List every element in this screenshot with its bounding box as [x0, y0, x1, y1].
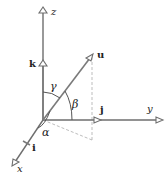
k-arrowhead-icon	[39, 60, 47, 66]
u-xy-projection-line	[43, 120, 92, 140]
beta-arc	[65, 91, 72, 120]
z-axis-label: z	[50, 6, 57, 17]
y-axis-arrowhead-icon	[156, 117, 163, 123]
j-label: j	[99, 104, 104, 115]
beta-label: β	[71, 98, 78, 111]
u-label: u	[97, 49, 104, 60]
z-axis-arrowhead-icon	[39, 7, 47, 13]
k-label: k	[29, 58, 37, 69]
j-arrowhead-icon	[94, 117, 101, 123]
alpha-label: α	[42, 126, 50, 139]
y-axis-label: y	[146, 103, 153, 114]
i-label: i	[32, 142, 36, 153]
x-axis-label: x	[17, 163, 23, 174]
direction-angles-diagram: z k y j x i u γ β α	[0, 0, 167, 180]
x-axis	[15, 120, 43, 162]
gamma-label: γ	[50, 80, 57, 93]
